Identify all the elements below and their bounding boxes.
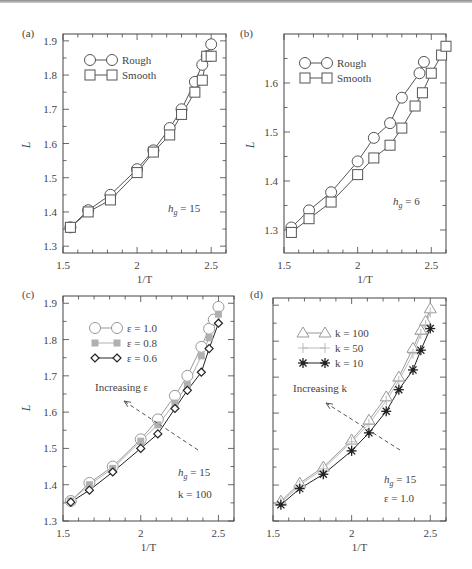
panel-c: 1.31.41.51.61.71.81.91.522.51/TL(c)ε = 1… (19, 288, 234, 553)
y-tick-label: 1.3 (43, 240, 57, 252)
y-tick-label: 1.7 (43, 370, 57, 382)
x-tick-label: 1.5 (277, 259, 291, 271)
x-tick-label: 2.5 (423, 527, 437, 539)
panel-b: 1.31.41.51.61.522.51/TL(b)RoughSmoothhg … (240, 27, 451, 285)
arrow-head-icon (326, 403, 333, 409)
y-tick-label: 1.9 (43, 297, 57, 309)
x-tick-label: 1.5 (266, 527, 280, 539)
y-tick-label: 1.8 (43, 69, 57, 81)
legend-label: k = 50 (335, 342, 364, 354)
y-tick-label: 1.6 (264, 77, 278, 89)
legend-entry: Rough (300, 57, 367, 69)
legend-label: Rough (122, 54, 152, 66)
panel-d: 1.522.51/T(d)k = 100k = 50k = 10hg = 15ε… (250, 288, 446, 553)
legend-label: Rough (337, 57, 367, 69)
y-axis-label: L (243, 141, 257, 149)
panel-label: (a) (22, 27, 35, 40)
y-tick-label: 1.7 (43, 103, 57, 115)
dashed-arrow (124, 401, 198, 450)
y-tick-label: 1.3 (264, 224, 278, 236)
x-tick-label: 1.5 (56, 527, 70, 539)
legend-label: ε = 0.8 (127, 337, 158, 349)
panel-label: (d) (250, 288, 263, 301)
y-tick-label: 1.4 (43, 206, 57, 218)
y-axis-label: L (19, 404, 33, 412)
x-axis-label: 1/T (141, 541, 157, 553)
legend-entry: Smooth (300, 72, 372, 84)
y-tick-label: 1.3 (43, 515, 57, 527)
x-tick-label: 2 (349, 527, 355, 539)
x-axis-label: 1/T (352, 541, 368, 553)
x-tick-label: 2 (355, 259, 361, 271)
legend-entry: Rough (85, 54, 152, 66)
y-tick-label: 1.5 (264, 126, 278, 138)
y-tick-label: 1.5 (43, 172, 57, 184)
legend-label: k = 10 (335, 357, 364, 369)
param-annotation: hg = 6 (393, 195, 420, 210)
y-tick-label: 1.6 (43, 138, 57, 150)
panel-a: 1.31.41.51.61.71.81.91.522.51/TL(a)Rough… (19, 27, 226, 285)
series-group (286, 41, 451, 237)
legend-entry: k = 50 (298, 342, 364, 354)
param-annotation-2: k = 100 (178, 488, 212, 500)
x-tick-label: 2 (134, 259, 140, 271)
x-axis-label: 1/T (357, 273, 373, 285)
panel-label: (b) (240, 27, 253, 40)
x-tick-label: 1.5 (56, 259, 70, 271)
legend-label: Smooth (337, 72, 372, 84)
legend-label: Smooth (122, 69, 157, 81)
legend-entry: k = 100 (297, 327, 369, 339)
panel-label: (c) (22, 288, 35, 301)
x-tick-label: 2 (138, 527, 144, 539)
y-tick-label: 1.6 (43, 406, 57, 418)
dashed-arrow (326, 403, 400, 450)
param-annotation: hg = 15 (168, 202, 201, 217)
legend-entry: k = 10 (298, 357, 364, 369)
arrow-label: Increasing ε (95, 381, 149, 393)
x-axis-label: 1/T (137, 273, 153, 285)
legend-label: ε = 0.6 (127, 352, 158, 364)
param-annotation-2: ε = 1.0 (384, 492, 415, 504)
arrow-head-icon (124, 401, 131, 407)
legend-entry: Smooth (85, 69, 157, 81)
legend-entry: ε = 1.0 (90, 322, 158, 334)
legend-entry: ε = 0.8 (92, 337, 158, 349)
legend-label: k = 100 (335, 327, 369, 339)
x-tick-label: 2.5 (212, 527, 226, 539)
x-tick-label: 2.5 (424, 259, 438, 271)
y-tick-label: 1.4 (264, 175, 278, 187)
arrow-label: Increasing k (293, 382, 348, 394)
param-annotation: hg = 15 (384, 473, 417, 488)
figure: 1.31.41.51.61.71.81.91.522.51/TL(a)Rough… (0, 0, 472, 569)
y-tick-label: 1.9 (43, 35, 57, 47)
y-tick-label: 1.8 (43, 334, 57, 346)
param-annotation: hg = 15 (178, 466, 211, 481)
y-tick-label: 1.4 (43, 479, 57, 491)
y-axis-label: L (19, 141, 33, 149)
y-tick-label: 1.5 (43, 442, 57, 454)
legend-entry: ε = 0.6 (91, 352, 158, 364)
legend-label: ε = 1.0 (127, 322, 158, 334)
x-tick-label: 2.5 (204, 259, 218, 271)
